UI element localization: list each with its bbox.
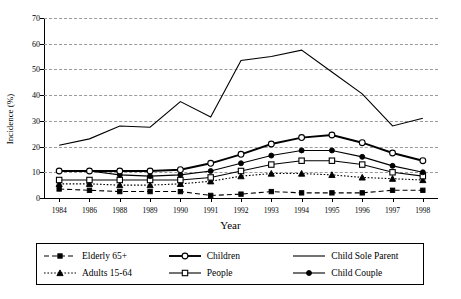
data-point xyxy=(147,168,153,174)
data-point xyxy=(117,168,123,174)
x-tick-mark xyxy=(89,198,90,202)
x-axis-title: Year xyxy=(0,219,461,231)
x-tick-mark xyxy=(271,198,272,202)
y-tick-label: 0 xyxy=(36,194,40,203)
data-point xyxy=(420,158,426,164)
data-series-layer xyxy=(44,18,438,198)
x-tick-label: 1984 xyxy=(52,206,67,215)
x-tick-mark xyxy=(180,198,181,202)
y-tick-label: 40 xyxy=(32,91,40,100)
y-tick-label: 50 xyxy=(32,65,40,74)
legend-key-icon xyxy=(43,250,77,262)
x-tick-label: 1994 xyxy=(294,206,309,215)
legend-key-icon xyxy=(292,250,326,262)
legend-label: Elderly 65+ xyxy=(82,251,127,261)
x-tick-label: 1988 xyxy=(112,206,127,215)
series-children xyxy=(56,132,425,174)
x-tick-label: 1995 xyxy=(324,206,339,215)
data-point xyxy=(57,187,61,191)
x-tick-mark xyxy=(150,198,151,202)
x-tick-mark xyxy=(423,198,424,202)
x-tick-mark xyxy=(59,198,60,202)
y-tick-label: 20 xyxy=(32,142,40,151)
data-point xyxy=(239,161,244,166)
legend-key-icon xyxy=(168,267,202,279)
y-tick-label: 70 xyxy=(32,14,40,23)
legend-key-icon xyxy=(168,250,202,262)
data-point xyxy=(329,158,334,163)
data-point xyxy=(87,177,92,182)
chart-legend: Elderly 65+ChildrenChild Sole ParentAdul… xyxy=(36,243,424,285)
data-point xyxy=(390,150,396,156)
data-point xyxy=(208,175,213,180)
data-point xyxy=(177,167,183,173)
data-point xyxy=(182,253,188,259)
data-point xyxy=(58,253,62,257)
data-point xyxy=(299,148,304,153)
data-point xyxy=(329,148,334,153)
legend-key-icon xyxy=(43,267,77,279)
data-point xyxy=(56,177,61,182)
data-point xyxy=(299,135,305,141)
series-child-sole-parent xyxy=(59,50,423,145)
data-point xyxy=(390,188,394,192)
data-point xyxy=(87,168,93,174)
data-point xyxy=(239,192,243,196)
x-tick-label: 1996 xyxy=(355,206,370,215)
x-tick-label: 1991 xyxy=(203,206,218,215)
legend-item[interactable]: People xyxy=(168,264,293,281)
data-point xyxy=(329,132,335,138)
data-point xyxy=(269,162,274,167)
legend-label: Adults 15-64 xyxy=(82,268,132,278)
data-point xyxy=(178,177,183,182)
data-point xyxy=(238,151,244,157)
data-point xyxy=(208,169,213,174)
data-point xyxy=(420,170,425,175)
series-line xyxy=(59,50,423,145)
data-point xyxy=(269,189,273,193)
legend-item[interactable]: Elderly 65+ xyxy=(43,247,168,264)
data-point xyxy=(238,168,243,173)
x-tick-label: 1992 xyxy=(234,206,249,215)
x-tick-mark xyxy=(362,198,363,202)
x-tick-mark xyxy=(211,198,212,202)
data-point xyxy=(208,193,212,197)
data-point xyxy=(148,189,152,193)
legend-label: Child Sole Parent xyxy=(331,251,398,261)
data-point xyxy=(178,189,182,193)
data-point xyxy=(421,188,425,192)
data-point xyxy=(87,188,91,192)
data-point xyxy=(390,170,395,175)
data-point xyxy=(56,168,62,174)
data-point xyxy=(389,176,395,182)
x-tick-label: 1997 xyxy=(385,206,400,215)
plot-area: 010203040506070 198419861988198919901991… xyxy=(44,18,438,198)
data-point xyxy=(330,191,334,195)
data-point xyxy=(208,160,214,166)
data-point xyxy=(359,140,365,146)
data-point xyxy=(118,189,122,193)
legend-item[interactable]: Child Sole Parent xyxy=(292,247,417,264)
x-tick-mark xyxy=(302,198,303,202)
legend-item[interactable]: Child Couple xyxy=(292,264,417,281)
y-axis-title: Incidence (%) xyxy=(2,72,18,164)
data-point xyxy=(360,191,364,195)
x-tick-mark xyxy=(241,198,242,202)
y-tick-label: 30 xyxy=(32,116,40,125)
legend-item[interactable]: Children xyxy=(168,247,293,264)
data-point xyxy=(360,162,365,167)
data-point xyxy=(299,191,303,195)
data-point xyxy=(269,153,274,158)
data-point xyxy=(307,270,312,275)
data-point xyxy=(182,270,187,275)
y-tick-label: 60 xyxy=(32,39,40,48)
data-point xyxy=(360,154,365,159)
x-tick-label: 1989 xyxy=(143,206,158,215)
data-point xyxy=(117,177,122,182)
data-point xyxy=(299,158,304,163)
x-tick-mark xyxy=(120,198,121,202)
x-tick-label: 1998 xyxy=(415,206,430,215)
legend-item[interactable]: Adults 15-64 xyxy=(43,264,168,281)
series-elderly-65 xyxy=(57,187,425,198)
data-point xyxy=(390,163,395,168)
